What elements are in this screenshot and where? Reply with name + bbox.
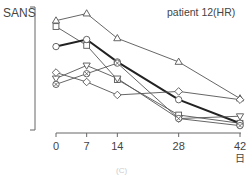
square-marker-icon xyxy=(84,43,90,49)
x-unit-label: 日 xyxy=(235,153,245,164)
x-tick-label: 14 xyxy=(111,140,123,152)
series-line xyxy=(56,73,240,100)
square-marker-icon xyxy=(53,24,59,30)
triangle-up-marker-icon xyxy=(83,10,90,16)
x-tick-label: 42 xyxy=(234,140,246,152)
x-tick-label: 7 xyxy=(84,140,90,152)
x-tick-label: 0 xyxy=(53,140,59,152)
diamond-marker-icon xyxy=(114,91,122,99)
series-line xyxy=(56,14,240,99)
triangle-down-marker-icon xyxy=(236,114,243,120)
diamond-marker-icon xyxy=(175,88,183,96)
diamond-marker-icon xyxy=(83,78,91,86)
circle-marker-icon xyxy=(53,43,59,49)
circle-marker-icon xyxy=(175,96,181,102)
figure-panel-label: (C) xyxy=(116,166,127,175)
y-axis-bracket xyxy=(30,7,35,130)
x-tick-label: 28 xyxy=(173,140,185,152)
triangle-up-marker-icon xyxy=(114,35,121,41)
line-chart: 07142842日 xyxy=(0,0,251,176)
circle-marker-icon xyxy=(83,36,89,42)
diamond-marker-icon xyxy=(52,69,60,77)
